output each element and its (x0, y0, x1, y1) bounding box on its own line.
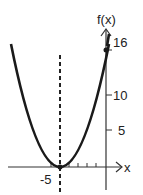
x-axis-label: x (124, 160, 131, 175)
vertex-point (58, 165, 63, 170)
y-tick-label-16: 16 (113, 35, 127, 50)
x-tick-label-neg5: -5 (40, 172, 52, 187)
y-tick-label-10: 10 (113, 88, 127, 103)
y-tick-label-5: 5 (118, 123, 125, 138)
parabola-chart: x f(x) 16 10 5 -5 (0, 0, 143, 195)
y-intercept-point (104, 48, 109, 53)
y-axis-label: f(x) (97, 12, 116, 27)
